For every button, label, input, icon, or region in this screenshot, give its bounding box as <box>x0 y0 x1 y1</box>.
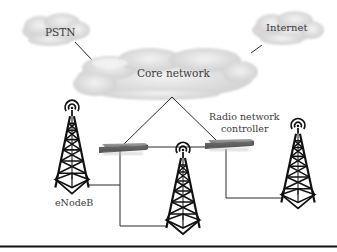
enodeb-label: eNodeB <box>55 197 93 208</box>
network-diagram: PSTN Internet Core network <box>0 0 337 252</box>
internet-core-link <box>251 45 262 53</box>
pstn-label: PSTN <box>45 26 75 38</box>
rnc-label-line1: Radio network <box>209 111 280 122</box>
rnc-label-line2: controller <box>221 123 269 134</box>
core-to-rnc-links <box>123 97 218 145</box>
internet-label: Internet <box>266 22 307 33</box>
rnc-left-switch <box>99 143 148 155</box>
enodeb-right-tower-icon <box>281 119 314 209</box>
enodeb-middle-tower-icon <box>166 142 199 234</box>
pstn-core-link <box>75 42 92 60</box>
rnc-right-switch <box>205 139 254 151</box>
core-network-label: Core network <box>137 67 210 79</box>
enodeb-left-tower-icon <box>55 100 88 193</box>
